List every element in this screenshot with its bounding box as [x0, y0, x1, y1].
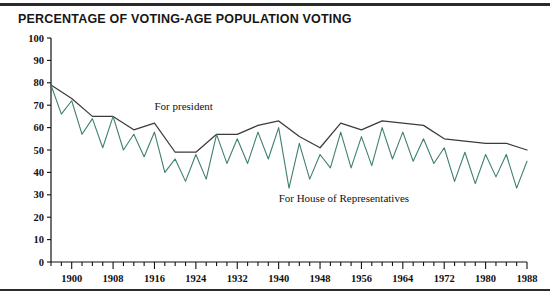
x-tick-label: 1900: [61, 273, 82, 284]
x-tick-label: 1948: [310, 273, 331, 284]
x-axis: 1900190819161924193219401948195619641972…: [51, 262, 538, 284]
series-lines: [51, 85, 527, 188]
y-axis: 0102030405060708090100: [28, 33, 51, 268]
x-tick-label: 1940: [268, 273, 289, 284]
top-rule: [0, 3, 550, 6]
house-label: For House of Representatives: [279, 192, 409, 204]
x-tick-label: 1908: [103, 273, 124, 284]
president-label: For president: [154, 100, 212, 112]
y-tick-label: 90: [34, 55, 45, 66]
y-tick-label: 40: [34, 167, 45, 178]
x-tick-label: 1956: [351, 273, 372, 284]
y-tick-label: 0: [39, 257, 44, 268]
y-tick-label: 30: [34, 189, 45, 200]
series-line-house: [51, 85, 527, 188]
x-tick-label: 1916: [144, 273, 165, 284]
y-tick-label: 70: [34, 100, 45, 111]
series-annotations: For presidentFor House of Representative…: [154, 100, 409, 204]
y-tick-label: 20: [34, 212, 45, 223]
y-tick-label: 60: [34, 122, 45, 133]
series-line-president: [51, 85, 527, 152]
y-tick-label: 50: [34, 145, 45, 156]
y-tick-label: 80: [34, 77, 45, 88]
y-tick-label: 10: [34, 234, 45, 245]
chart-figure: PERCENTAGE OF VOTING-AGE POPULATION VOTI…: [0, 0, 550, 302]
x-tick-label: 1932: [227, 273, 248, 284]
x-tick-label: 1980: [475, 273, 496, 284]
x-tick-label: 1964: [392, 273, 414, 284]
line-chart-plot: 0102030405060708090100 19001908191619241…: [0, 22, 550, 290]
x-tick-label: 1972: [434, 273, 455, 284]
x-tick-label: 1988: [517, 273, 538, 284]
y-tick-label: 100: [28, 33, 44, 44]
x-tick-label: 1924: [185, 273, 207, 284]
bottom-rule: [0, 289, 550, 291]
